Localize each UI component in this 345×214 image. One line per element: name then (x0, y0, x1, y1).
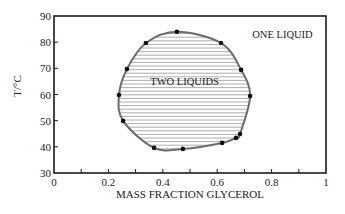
data-point (117, 93, 122, 98)
y-tick-label: 30 (40, 167, 52, 179)
y-axis-title: T/°C (11, 75, 23, 97)
x-tick-label: 0 (51, 176, 57, 188)
data-point (181, 147, 186, 152)
data-point (239, 68, 244, 73)
data-point (248, 94, 253, 99)
x-tick-label: 0.4 (156, 176, 170, 188)
phase-diagram-chart: 00.20.40.60.8130405060708090 MASS FRACTI… (0, 0, 345, 214)
y-tick-label: 80 (40, 36, 52, 48)
data-point (238, 132, 243, 137)
data-point (234, 136, 239, 141)
y-tick-label: 70 (40, 62, 52, 74)
data-point (220, 141, 225, 146)
data-point (152, 146, 157, 151)
data-point (144, 41, 149, 46)
data-point (121, 119, 126, 124)
y-tick-label: 40 (40, 141, 52, 153)
y-tick-label: 50 (40, 115, 52, 127)
y-tick-label: 90 (40, 10, 52, 22)
x-tick-label: 1 (323, 176, 329, 188)
two-liquid-hatching (100, 30, 270, 152)
x-tick-label: 0.8 (265, 176, 279, 188)
one-liquid-label: ONE LIQUID (252, 29, 313, 40)
data-point (175, 29, 180, 34)
data-point (125, 67, 130, 72)
x-tick-label: 0.2 (102, 176, 116, 188)
x-axis-title: MASS FRACTION GLYCEROL (116, 188, 264, 200)
y-tick-label: 60 (40, 89, 52, 101)
x-tick-label: 0.6 (210, 176, 224, 188)
two-liquids-label: TWO LIQUIDS (150, 76, 219, 87)
data-point (219, 41, 224, 46)
axis-ticks (54, 42, 299, 173)
